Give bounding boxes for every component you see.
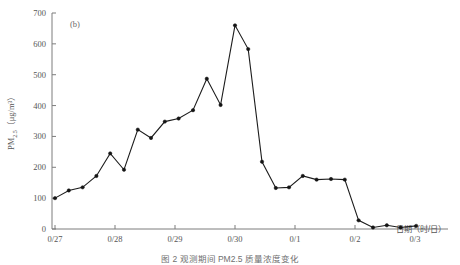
data-point (177, 117, 180, 120)
data-point (109, 152, 112, 155)
figure-caption: 图 2 观测期间 PM2.5 质量浓度变化 (0, 252, 460, 264)
data-point (81, 186, 84, 189)
data-point (260, 160, 263, 163)
x-tick-label: 0/30 (227, 234, 242, 244)
data-point (95, 174, 98, 177)
data-point (67, 189, 70, 192)
data-point (385, 224, 388, 227)
data-point (399, 226, 402, 229)
x-tick-label: 0/29 (167, 234, 182, 244)
panel-label: (b) (70, 19, 80, 29)
y-axis-tick-labels: 0100200300400500600700 (33, 8, 46, 234)
data-point (247, 47, 250, 50)
pm25-series-line (55, 25, 416, 227)
data-point (191, 109, 194, 112)
data-point (329, 177, 332, 180)
y-axis-title: PM2.5（μg/m³） (6, 92, 18, 150)
x-axis-tick-labels: 0/270/280/290/300/10/20/3 (47, 234, 420, 244)
x-tick-label: 0/1 (290, 234, 301, 244)
data-point (274, 186, 277, 189)
data-point (415, 224, 418, 227)
data-point (301, 174, 304, 177)
y-axis-title-unit: （μg/m³） (6, 92, 16, 130)
y-tick-label: 500 (33, 70, 46, 80)
y-tick-label: 600 (33, 39, 46, 49)
y-tick-label: 400 (33, 101, 46, 111)
x-tick-label: 0/28 (107, 234, 122, 244)
pm25-series-markers (53, 24, 418, 230)
data-point (357, 219, 360, 222)
figure-panel-b: 0100200300400500600700 0/270/280/290/300… (0, 0, 460, 265)
x-tick-label: 0/27 (47, 234, 62, 244)
y-tick-label: 100 (33, 193, 46, 203)
data-point (149, 136, 152, 139)
data-point (219, 103, 222, 106)
data-point (287, 186, 290, 189)
data-point (136, 128, 139, 131)
x-axis-ticks (55, 225, 415, 229)
y-tick-label: 300 (33, 131, 46, 141)
pm25-line-chart: 0100200300400500600700 0/270/280/290/300… (0, 0, 460, 265)
data-point (315, 178, 318, 181)
data-point (205, 77, 208, 80)
y-tick-label: 700 (33, 8, 46, 18)
data-point (233, 24, 236, 27)
x-tick-label: 0/2 (350, 234, 361, 244)
data-point (163, 120, 166, 123)
y-axis-title-species: PM (6, 137, 16, 150)
y-axis-title-subscript: 2.5 (12, 130, 18, 138)
y-tick-label: 0 (42, 224, 46, 234)
data-point (53, 196, 56, 199)
data-point (122, 168, 125, 171)
x-tick-label: 0/3 (410, 234, 421, 244)
y-tick-label: 200 (33, 162, 46, 172)
data-point (371, 226, 374, 229)
svg-text:PM2.5（μg/m³）: PM2.5（μg/m³） (6, 92, 18, 150)
data-point (343, 178, 346, 181)
x-axis-title: 日期（时/日） (396, 224, 446, 234)
